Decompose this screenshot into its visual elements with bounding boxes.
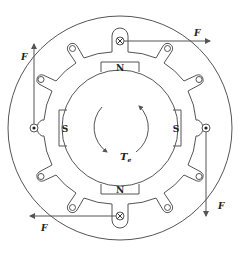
slot-circle (70, 46, 76, 52)
pole-right-label: S (173, 124, 180, 134)
torque-arrow-right (136, 106, 148, 152)
slot-circle (165, 46, 171, 52)
force-label-right: F (217, 201, 225, 211)
slot-circle (38, 174, 44, 180)
torque-arrow-left (94, 107, 107, 152)
conductor-right (202, 124, 210, 132)
motor-diagram: N N S S Te F F F F (0, 0, 240, 254)
stator-outer-circle (8, 16, 232, 240)
conductor-bottom (116, 212, 124, 220)
force-label-left: F (20, 52, 28, 62)
torque-label: Te (120, 151, 131, 163)
pole-left-label: S (62, 124, 69, 134)
conductor-left (30, 124, 38, 132)
slot-circle (70, 205, 76, 211)
force-label-bottom: F (40, 223, 48, 233)
pole-bottom: N (101, 184, 139, 195)
rotor-circle (62, 70, 178, 186)
pole-top-label: N (116, 63, 124, 73)
slot-circle (196, 77, 202, 83)
force-label-top: F (193, 28, 201, 38)
slot-circle (165, 205, 171, 211)
slot-circle (196, 174, 202, 180)
pole-bottom-label: N (116, 185, 124, 195)
slot-circle (38, 77, 44, 83)
conductor-top (116, 37, 124, 45)
